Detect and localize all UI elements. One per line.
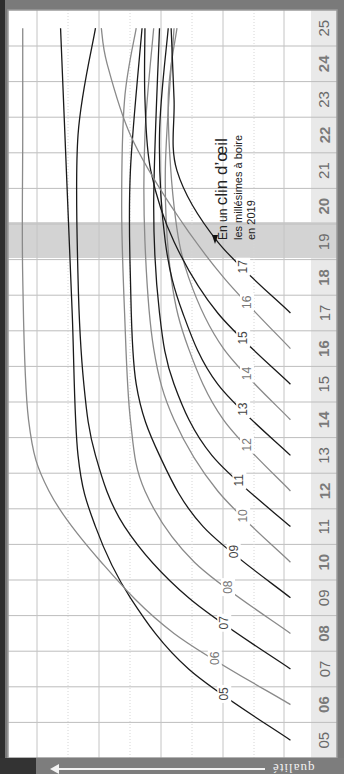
year-tick-label: 12 xyxy=(316,483,333,500)
quality-axis-label: qualité xyxy=(272,760,314,774)
year-tick-label: 21 xyxy=(316,162,333,179)
year-tick-label: 24 xyxy=(316,55,333,72)
year-tick-label: 08 xyxy=(316,625,333,642)
annotation: En un clin d’œil les millésimes à boire … xyxy=(212,135,258,240)
year-tick-label: 23 xyxy=(316,91,333,108)
year-tick-label: 25 xyxy=(316,20,333,37)
annotation-emphasis: clin d’œil xyxy=(212,138,231,205)
year-labels: 0506070809101112131415161718192021222324… xyxy=(316,20,333,749)
year-tick-label: 10 xyxy=(316,554,333,571)
year-tick-label: 05 xyxy=(316,732,333,749)
year-tick-label: 15 xyxy=(316,376,333,393)
quality-axis-arrow xyxy=(55,768,265,770)
annotation-prefix: En un xyxy=(216,205,230,240)
series-label-11: 11 xyxy=(232,474,246,487)
year-tick-label: 16 xyxy=(316,340,333,357)
year-tick-label: 09 xyxy=(316,589,333,606)
bottom-dark-corner xyxy=(0,758,36,774)
series-label-16: 16 xyxy=(240,295,254,309)
year-tick-label: 11 xyxy=(316,519,333,535)
year-tick-label: 20 xyxy=(316,198,333,215)
annotation-line2: les millésimes à boire xyxy=(232,135,245,240)
series-label-15: 15 xyxy=(236,331,250,345)
year-tick-label: 06 xyxy=(316,696,333,713)
annotation-line3: en 2019 xyxy=(245,135,258,240)
series-label-14: 14 xyxy=(240,367,254,381)
year-tick-label: 22 xyxy=(316,127,333,144)
year-tick-label: 18 xyxy=(316,269,333,286)
year-tick-label: 07 xyxy=(316,661,333,678)
year-tick-label: 17 xyxy=(316,305,333,322)
series-label-09: 09 xyxy=(227,545,241,559)
year-tick-label: 14 xyxy=(316,411,333,428)
series-label-06: 06 xyxy=(208,651,222,665)
series-label-07: 07 xyxy=(217,616,231,630)
series-label-05: 05 xyxy=(217,687,231,701)
year-tick-label: 19 xyxy=(316,233,333,250)
year-tick-label: 13 xyxy=(316,447,333,464)
vintage-chart: 05060708091011121314151617 0506070809101… xyxy=(0,0,344,774)
series-label-08: 08 xyxy=(221,580,235,594)
series-label-12: 12 xyxy=(240,438,254,452)
series-label-10: 10 xyxy=(236,509,250,523)
series-label-13: 13 xyxy=(236,402,250,416)
series-label-17: 17 xyxy=(236,260,250,274)
